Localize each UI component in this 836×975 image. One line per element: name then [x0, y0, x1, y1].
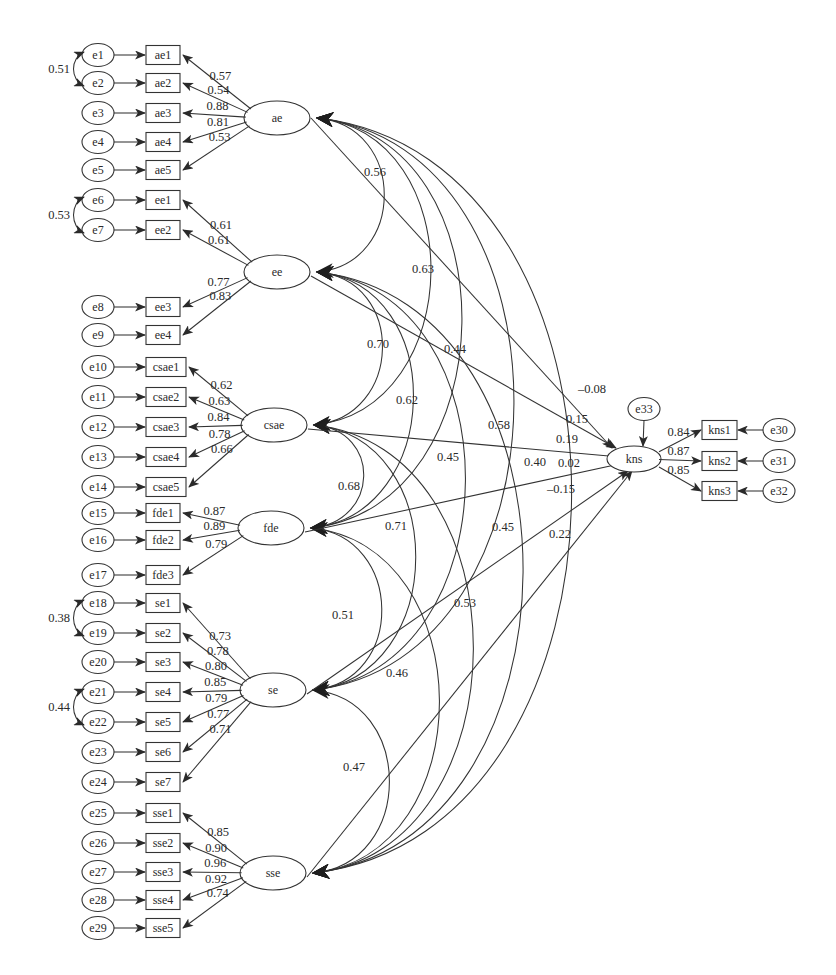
disturbance-label: e33: [635, 402, 652, 416]
loading-value: 0.85: [204, 675, 226, 689]
loading-value: 0.62: [211, 378, 233, 392]
correlation-value: 0.68: [338, 479, 360, 493]
loading-value: 0.83: [209, 289, 231, 303]
correlation-arc: [311, 528, 439, 873]
loading-value: 0.73: [209, 629, 231, 643]
loading-value: 0.79: [205, 537, 227, 551]
latent-label: csae: [264, 418, 285, 432]
loading-value: 0.74: [207, 886, 230, 900]
correlation-arc: [311, 425, 364, 528]
error-label: e6: [92, 193, 103, 207]
latent-factor-ae: ae: [244, 101, 310, 135]
loading-value: 0.63: [208, 394, 230, 408]
indicator-label: sse4: [153, 893, 174, 907]
indicator-label: ae5: [155, 163, 172, 177]
latent-label: ee: [272, 265, 283, 279]
error-label: e14: [89, 480, 106, 494]
error-label: e9: [92, 328, 103, 342]
error-label: e5: [92, 163, 103, 177]
latent-label: se: [268, 683, 278, 697]
loading-value: 0.54: [208, 83, 231, 97]
correlation-value: 0.51: [332, 608, 354, 622]
path-coefficient: 0.19: [556, 432, 578, 446]
outcome-kns: knse33: [607, 398, 661, 473]
indicator-label: kns2: [708, 454, 731, 468]
loading-value: 0.84: [668, 425, 691, 439]
indicator-label: csae4: [153, 450, 180, 464]
indicator-label: fde3: [152, 568, 173, 582]
indicator-label: csae2: [153, 390, 180, 404]
correlation-value: 0.40: [524, 455, 546, 469]
correlation-csae-fde: 0.68: [311, 425, 364, 528]
correlation-arc: [313, 690, 389, 873]
error-label: e25: [89, 806, 106, 820]
loading-value: 0.53: [209, 130, 231, 144]
loading-value: 0.92: [205, 872, 227, 886]
factor-correlation-layer: 0.560.630.440.580.400.700.620.450.450.68…: [311, 118, 572, 873]
error-label: e13: [89, 450, 106, 464]
loading-value: 0.57: [209, 69, 231, 83]
correlation-value: 0.62: [396, 393, 418, 407]
indicator-label: ae4: [155, 135, 172, 149]
path-ee-kns: 0.15: [311, 276, 616, 448]
error-label: e22: [89, 715, 106, 729]
error-label: e28: [89, 893, 106, 907]
error-label: e12: [89, 420, 106, 434]
loading-value: 0.78: [209, 427, 231, 441]
correlation-arc: [311, 118, 462, 528]
loading-value: 0.90: [205, 841, 227, 855]
indicator-label: ae3: [155, 106, 172, 120]
correlation-ae-fde: 0.44: [311, 118, 467, 528]
sem-path-diagram: 0.560.630.440.580.400.700.620.450.450.68…: [0, 0, 836, 975]
loading-value: 0.61: [208, 233, 230, 247]
loading-value: 0.71: [210, 722, 232, 736]
path-coefficient: 0.22: [549, 527, 571, 541]
indicator-label: csae3: [153, 420, 180, 434]
indicator-label: ee4: [155, 328, 172, 342]
error-label: e4: [92, 135, 103, 149]
indicator-label: kns1: [708, 423, 731, 437]
correlation-arc: [313, 272, 523, 873]
error-label: e1: [92, 48, 103, 62]
error-covariance: 0.38: [48, 600, 84, 636]
correlation-value: 0.56: [364, 165, 386, 179]
error-label: e32: [770, 484, 787, 498]
error-label: e24: [89, 775, 106, 789]
outcome-model-layer: knse33kns1e300.84kns2e310.87kns3e320.85: [607, 398, 795, 503]
disturbance-arrow: [643, 421, 644, 447]
indicator-label: sse5: [153, 921, 174, 935]
latent-label: fde: [263, 521, 278, 535]
error-label: e31: [770, 454, 787, 468]
indicator-label: ee1: [155, 193, 172, 207]
error-label: e16: [89, 533, 106, 547]
measurement-model-layer: aeeecsaefdesessee1ae10.57e2ae20.54e3ae30…: [48, 44, 310, 940]
indicator-label: se5: [155, 715, 171, 729]
indicator-label: se2: [155, 626, 171, 640]
loading-value: 0.77: [207, 707, 229, 721]
structural-arrow: [307, 471, 632, 877]
path-coefficient: –0.08: [577, 382, 606, 396]
error-label: e2: [92, 76, 103, 90]
indicator-label: kns3: [708, 484, 731, 498]
error-label: e27: [89, 865, 106, 879]
covariance-value: 0.44: [48, 700, 71, 714]
error-label: e26: [89, 836, 106, 850]
correlation-value: 0.45: [437, 450, 459, 464]
latent-label: sse: [266, 866, 281, 880]
indicator-label: se3: [155, 655, 171, 669]
error-label: e23: [89, 745, 106, 759]
correlation-value: 0.53: [454, 596, 476, 610]
path-coefficient: 0.15: [566, 412, 588, 426]
loading-value: 0.85: [668, 463, 690, 477]
loading-arrow: [659, 460, 701, 462]
correlation-value: 0.45: [492, 520, 514, 534]
error-label: e10: [89, 360, 106, 374]
latent-factor-csae: csae: [241, 408, 307, 442]
loading-value: 0.66: [211, 442, 233, 456]
indicator-label: ee2: [155, 223, 172, 237]
loading-value: 0.81: [207, 115, 229, 129]
loading-value: 0.96: [204, 856, 226, 870]
loading-value: 0.84: [208, 410, 231, 424]
indicator-label: se6: [155, 745, 171, 759]
error-label: e7: [92, 223, 103, 237]
